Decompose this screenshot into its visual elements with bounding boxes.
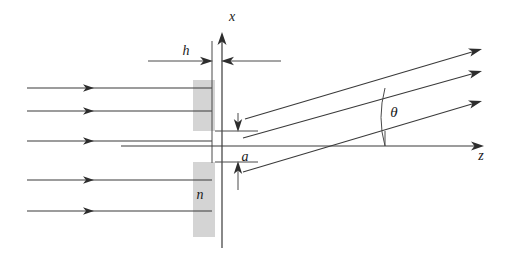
incident-ray-2 <box>27 107 212 115</box>
optics-diagram-svg: z x h a n <box>0 0 510 271</box>
a-dimension-label: a <box>242 149 249 164</box>
optics-diagram-canvas: z x h a n <box>0 0 510 271</box>
z-axis-label: z <box>477 148 484 163</box>
h-dimension-label: h <box>183 43 190 58</box>
theta-arc <box>381 88 385 146</box>
diffracted-ray-3 <box>243 100 482 172</box>
theta-angle-label: θ <box>390 104 398 120</box>
h-dimension-group: h <box>148 43 281 65</box>
x-axis-group: x <box>218 9 236 248</box>
incident-ray-1 <box>27 84 212 92</box>
incident-ray-5 <box>27 207 212 215</box>
incident-rays-group <box>27 84 212 215</box>
diffracted-ray-2 <box>243 70 482 138</box>
diffracted-ray-1 <box>245 48 482 119</box>
diffracted-rays-group <box>243 48 482 172</box>
refractive-index-label: n <box>197 187 204 202</box>
incident-ray-4 <box>27 176 212 184</box>
z-axis-group: z <box>121 142 484 164</box>
x-axis-label: x <box>228 9 236 24</box>
incident-ray-3 <box>27 137 212 145</box>
